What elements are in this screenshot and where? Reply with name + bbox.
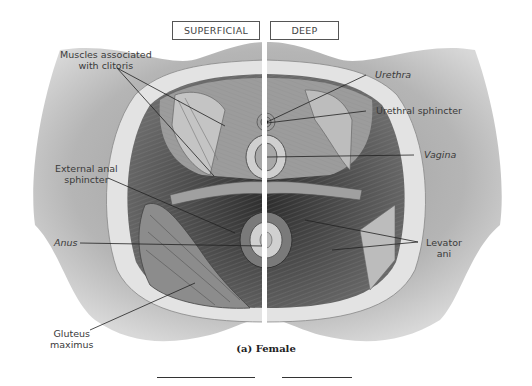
label-line-2: ani	[426, 248, 462, 259]
label-external-anal-sphincter: External anal sphincter	[55, 163, 118, 185]
label-urethral-sphincter: Urethral sphincter	[376, 105, 462, 116]
label-line-2: sphincter	[55, 174, 118, 185]
label-line-1: Gluteus	[50, 328, 94, 339]
label-muscles-clitoris: Muscles associated with clitoris	[60, 49, 152, 71]
bottom-rule-right	[282, 377, 352, 378]
center-divider	[262, 40, 267, 340]
label-urethra: Urethra	[375, 69, 411, 80]
label-levator-ani: Levator ani	[426, 237, 462, 259]
bottom-rule-left	[157, 377, 255, 378]
figure-caption: (a) Female	[0, 343, 532, 354]
tab-deep: DEEP	[270, 21, 339, 40]
label-anus: Anus	[54, 237, 78, 248]
label-line-2: with clitoris	[60, 60, 152, 71]
label-line-1: External anal	[55, 163, 118, 174]
label-line-1: Levator	[426, 237, 462, 248]
label-vagina: Vagina	[424, 149, 456, 160]
perineum-diagram: SUPERFICIAL DEEP Muscles associated with…	[0, 0, 532, 386]
tab-superficial: SUPERFICIAL	[172, 21, 260, 40]
label-line-1: Muscles associated	[60, 49, 152, 60]
